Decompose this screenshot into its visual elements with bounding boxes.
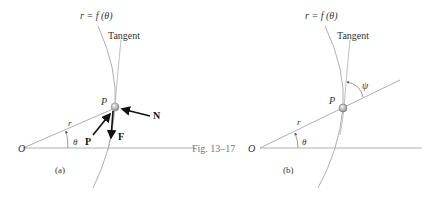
force-N-arrow bbox=[122, 109, 150, 116]
radius-label: r bbox=[297, 117, 301, 127]
force-F-arrow bbox=[111, 111, 113, 138]
force-F-label: F bbox=[118, 131, 124, 142]
tangent-label: Tangent bbox=[337, 30, 369, 41]
point-label: P bbox=[328, 95, 335, 106]
origin-label: O bbox=[18, 143, 25, 154]
particle bbox=[339, 104, 347, 112]
tangent-angle-label: ψ bbox=[362, 80, 369, 91]
theta-arc bbox=[295, 133, 298, 148]
particle bbox=[111, 103, 119, 111]
panel-b: r = f (θ) Tangent ψ P r θ O (b) bbox=[248, 10, 422, 188]
figure-canvas: r = f (θ) Tangent P r θ O N P F (a) Fig.… bbox=[0, 0, 442, 198]
figure-caption: Fig. 13–17 bbox=[192, 143, 235, 154]
panel-label-a: (a) bbox=[55, 165, 65, 175]
curve-label: r = f (θ) bbox=[305, 10, 338, 22]
origin-label: O bbox=[248, 143, 255, 154]
curve-label: r = f (θ) bbox=[80, 10, 113, 22]
angle-label: θ bbox=[302, 137, 307, 147]
tangent-label: Tangent bbox=[108, 30, 140, 41]
radial-line bbox=[260, 80, 400, 148]
angle-label: θ bbox=[73, 137, 78, 147]
panel-a: r = f (θ) Tangent P r θ O N P F (a) bbox=[18, 10, 195, 188]
radius-label: r bbox=[68, 118, 72, 128]
force-P-label: P bbox=[85, 136, 91, 147]
panel-label-b: (b) bbox=[283, 165, 294, 175]
psi-arc bbox=[347, 82, 363, 97]
theta-arc bbox=[66, 131, 68, 148]
point-label: P bbox=[100, 96, 107, 107]
force-P-arrow bbox=[93, 114, 110, 135]
force-N-label: N bbox=[153, 110, 161, 121]
